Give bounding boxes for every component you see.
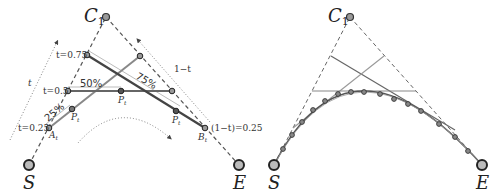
label-e-right: E — [475, 172, 489, 193]
bezier-polyline — [274, 92, 482, 165]
point-pt-left — [69, 106, 75, 112]
curve-point — [437, 122, 442, 127]
label-pt-left: Pt — [70, 112, 80, 123]
point-bt — [202, 125, 208, 131]
label-75-percent: 75% — [134, 70, 159, 91]
point-s-right — [269, 160, 279, 170]
label-at: At — [48, 130, 59, 141]
left-panel: C1 S E t 1−t t=0.75 t=0.5 t=0.25 (1−t)=0… — [10, 5, 263, 193]
curve-point — [300, 120, 305, 125]
point-pt-right — [173, 108, 179, 114]
curve-point — [378, 92, 383, 97]
label-pt-right: Pt — [171, 115, 181, 126]
point-s — [24, 160, 34, 170]
label-t: t — [28, 78, 32, 88]
label-c1: C1 — [84, 5, 105, 28]
curve-point — [311, 108, 316, 113]
curve-point — [453, 135, 458, 140]
curve-point — [349, 90, 354, 95]
label-t075: t=0.75 — [56, 50, 87, 60]
label-pt-mid: Pt — [117, 95, 127, 106]
label-t025: t=0.25 — [18, 123, 49, 133]
label-bt: Bt — [197, 132, 208, 143]
curve-point — [466, 149, 471, 154]
curve-point — [419, 109, 424, 114]
label-e: E — [232, 172, 246, 193]
curve-point — [281, 147, 286, 152]
label-25-percent: 25% — [42, 101, 66, 124]
right-panel: C1 S E — [268, 5, 489, 193]
label-50-percent: 50% — [80, 78, 102, 89]
rotation-arc-arrow — [78, 118, 170, 143]
label-s-right: S — [268, 172, 280, 193]
label-t05: t=0.5 — [43, 86, 69, 96]
point-pt-mid — [118, 88, 124, 94]
point-e — [234, 160, 244, 170]
label-s: S — [23, 172, 35, 193]
curve-point — [362, 90, 367, 95]
label-end-t: (1−t)=0.25 — [211, 123, 263, 133]
bezier-construction-diagram: C1 S E t 1−t t=0.75 t=0.5 t=0.25 (1−t)=0… — [0, 0, 497, 194]
point-e-right — [477, 160, 487, 170]
curve-point — [406, 102, 411, 107]
curve-point — [290, 133, 295, 138]
label-c1-right: C1 — [328, 5, 349, 28]
point-right-05 — [169, 88, 175, 94]
curve-point — [392, 97, 397, 102]
curve-point — [323, 99, 328, 104]
curve-point — [336, 92, 341, 97]
label-one-minus-t: 1−t — [174, 64, 191, 74]
curve-sample-points — [281, 90, 471, 154]
point-upper-right — [137, 53, 143, 59]
